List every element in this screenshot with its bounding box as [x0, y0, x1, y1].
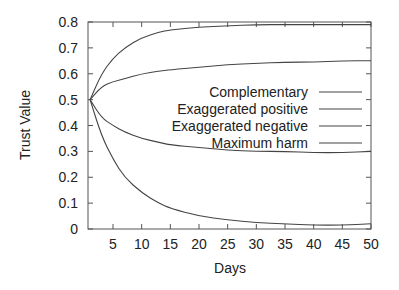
line-chart: 5101520253035404550 00.10.20.30.40.50.60…: [0, 0, 399, 290]
legend-label: Exaggerated negative: [172, 118, 308, 134]
x-tick-label: 25: [220, 236, 236, 252]
y-tick-label: 0.3: [59, 143, 79, 159]
x-tick-label: 10: [134, 236, 150, 252]
legend-label: Maximum harm: [212, 135, 308, 151]
y-tick-label: 0.4: [59, 118, 79, 134]
x-tick-label: 40: [306, 236, 322, 252]
x-tick-label: 15: [163, 236, 179, 252]
y-tick-label: 0.5: [59, 92, 79, 108]
x-tick-label: 45: [335, 236, 351, 252]
y-tick-label: 0.8: [59, 14, 79, 30]
y-tick-label: 0.1: [59, 195, 79, 211]
x-tick-label: 20: [191, 236, 207, 252]
x-tick-label: 30: [249, 236, 265, 252]
legend: ComplementaryExaggerated positiveExagger…: [172, 84, 362, 151]
y-axis-title: Trust Value: [17, 90, 33, 160]
y-tick-label: 0.7: [59, 40, 79, 56]
legend-label: Complementary: [209, 84, 308, 100]
x-tick-label: 35: [277, 236, 293, 252]
y-tick-label: 0.6: [59, 66, 79, 82]
y-tick-label: 0: [70, 221, 78, 237]
legend-label: Exaggerated positive: [177, 101, 308, 117]
x-tick-label: 5: [109, 236, 117, 252]
x-axis-title: Days: [214, 260, 246, 276]
y-tick-label: 0.2: [59, 169, 79, 185]
x-tick-label: 50: [363, 236, 379, 252]
